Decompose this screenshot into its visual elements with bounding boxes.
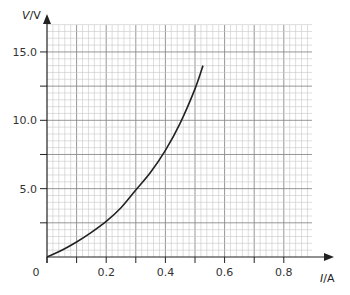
x-tick-label: 0 <box>33 266 40 279</box>
chart: 00.20.40.60.85.010.015.0 V/V I/A <box>0 0 350 295</box>
y-tick-label: 5.0 <box>20 183 38 196</box>
y-tick-label: 10.0 <box>13 114 38 127</box>
x-axis-arrow-icon <box>324 253 334 261</box>
x-tick-label: 0.6 <box>216 266 234 279</box>
y-axis-arrow-icon <box>43 14 51 24</box>
y-tick-label: 15.0 <box>13 46 38 59</box>
axes <box>43 14 334 263</box>
y-axis-label: V/V <box>22 9 41 22</box>
x-axis-label: I/A <box>320 272 335 285</box>
x-tick-label: 0.8 <box>275 266 293 279</box>
tick-labels: 00.20.40.60.85.010.015.0 <box>13 46 293 279</box>
x-tick-label: 0.2 <box>97 266 115 279</box>
x-tick-label: 0.4 <box>157 266 175 279</box>
grid <box>47 25 312 257</box>
